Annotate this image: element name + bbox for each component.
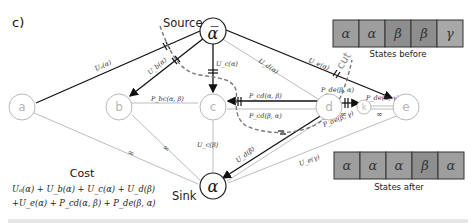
svg-text:e: e <box>402 100 409 114</box>
node-b: b <box>106 94 132 120</box>
state-before-cell-2: β <box>385 20 411 47</box>
edge-d-sink <box>223 115 322 178</box>
svg-text:β: β <box>420 158 429 173</box>
state-before-cell-1: α <box>359 20 385 47</box>
label-e-sink: U_e(γ) <box>298 153 321 168</box>
state-after-cell-4: α <box>438 152 464 179</box>
label-d-sink: U_d(β) <box>234 145 256 165</box>
state-after-cell-0: α <box>334 152 360 179</box>
node-d: d <box>316 94 342 120</box>
edge-a-sink <box>32 112 198 184</box>
cost-title: Cost <box>70 167 95 180</box>
label-src-c: U_c(α) <box>216 60 238 68</box>
node-a: a <box>9 94 35 120</box>
state-after-cell-2: α <box>386 152 412 179</box>
states-before: α α β β γ States before <box>333 20 463 59</box>
cost-block: Cost Uₐ(α) + U_b(α) + U_c(α) + U_d(β) +U… <box>12 167 155 209</box>
sink-label: Sink <box>172 189 197 203</box>
cropped-caption-line <box>8 219 468 223</box>
svg-text:b: b <box>115 100 123 114</box>
cost-line-2: +U_e(α) + P_cd(α, β) + P_de(β, α) <box>12 198 155 209</box>
graph-cut-diagram: c) cut <box>0 0 474 223</box>
svg-text:α: α <box>369 158 378 173</box>
label-cd-bot: P_cd(β, α) <box>248 112 282 120</box>
label-dk: P_de(β, α) <box>320 86 354 94</box>
label-src-d: U_d(α) <box>257 57 280 76</box>
state-before-cell-4: γ <box>437 20 463 47</box>
svg-text:k: k <box>362 103 367 112</box>
edge-labels: Uₐ(α) U_b(α) U_c(α) U_d(α) U_e(α) P_bc(α… <box>94 56 400 168</box>
state-before-cell-0: α <box>333 20 359 47</box>
edge-source-a <box>36 31 200 103</box>
svg-text:a: a <box>18 100 25 114</box>
svg-text:γ: γ <box>446 26 454 41</box>
svg-text:α: α <box>447 158 456 173</box>
svg-text:α: α <box>343 158 352 173</box>
source-node: α̅ <box>200 18 226 44</box>
svg-text:β: β <box>393 26 402 41</box>
svg-text:α: α <box>395 158 404 173</box>
sink-node: α <box>200 173 226 199</box>
svg-text:d: d <box>325 100 333 114</box>
state-after-cell-1: α <box>360 152 386 179</box>
states-before-caption: States before <box>370 49 427 59</box>
label-src-b: U_b(α) <box>146 56 169 77</box>
states-after: α α α β α States after <box>334 152 464 192</box>
node-e: e <box>393 94 419 120</box>
svg-text:α̅: α̅ <box>208 24 219 43</box>
panel-label: c) <box>12 15 24 30</box>
state-before-cell-3: β <box>411 20 437 47</box>
node-k: k <box>357 100 371 114</box>
label-ke-inf: ∞ <box>376 110 383 119</box>
svg-text:α: α <box>208 177 219 196</box>
cost-line-1: Uₐ(α) + U_b(α) + U_c(α) + U_d(β) <box>12 184 155 195</box>
source-label: Source <box>163 16 203 30</box>
state-after-cell-3: β <box>412 152 438 179</box>
states-after-caption: States after <box>374 182 424 192</box>
svg-text:c: c <box>210 100 217 114</box>
label-cd-top: P_cd(α, β) <box>248 92 282 100</box>
svg-text:β: β <box>419 26 428 41</box>
edge-source-b <box>130 38 204 96</box>
label-src-e: U_e(α) <box>307 56 331 72</box>
node-c: c <box>200 94 226 120</box>
label-bc: P_bc(α, β) <box>150 95 184 103</box>
cut-label: cut <box>334 49 355 71</box>
svg-text:α: α <box>368 26 377 41</box>
label-c-sink: U_c(β) <box>197 141 219 149</box>
edge-d-sink-gray <box>227 112 334 181</box>
svg-text:α: α <box>342 26 351 41</box>
